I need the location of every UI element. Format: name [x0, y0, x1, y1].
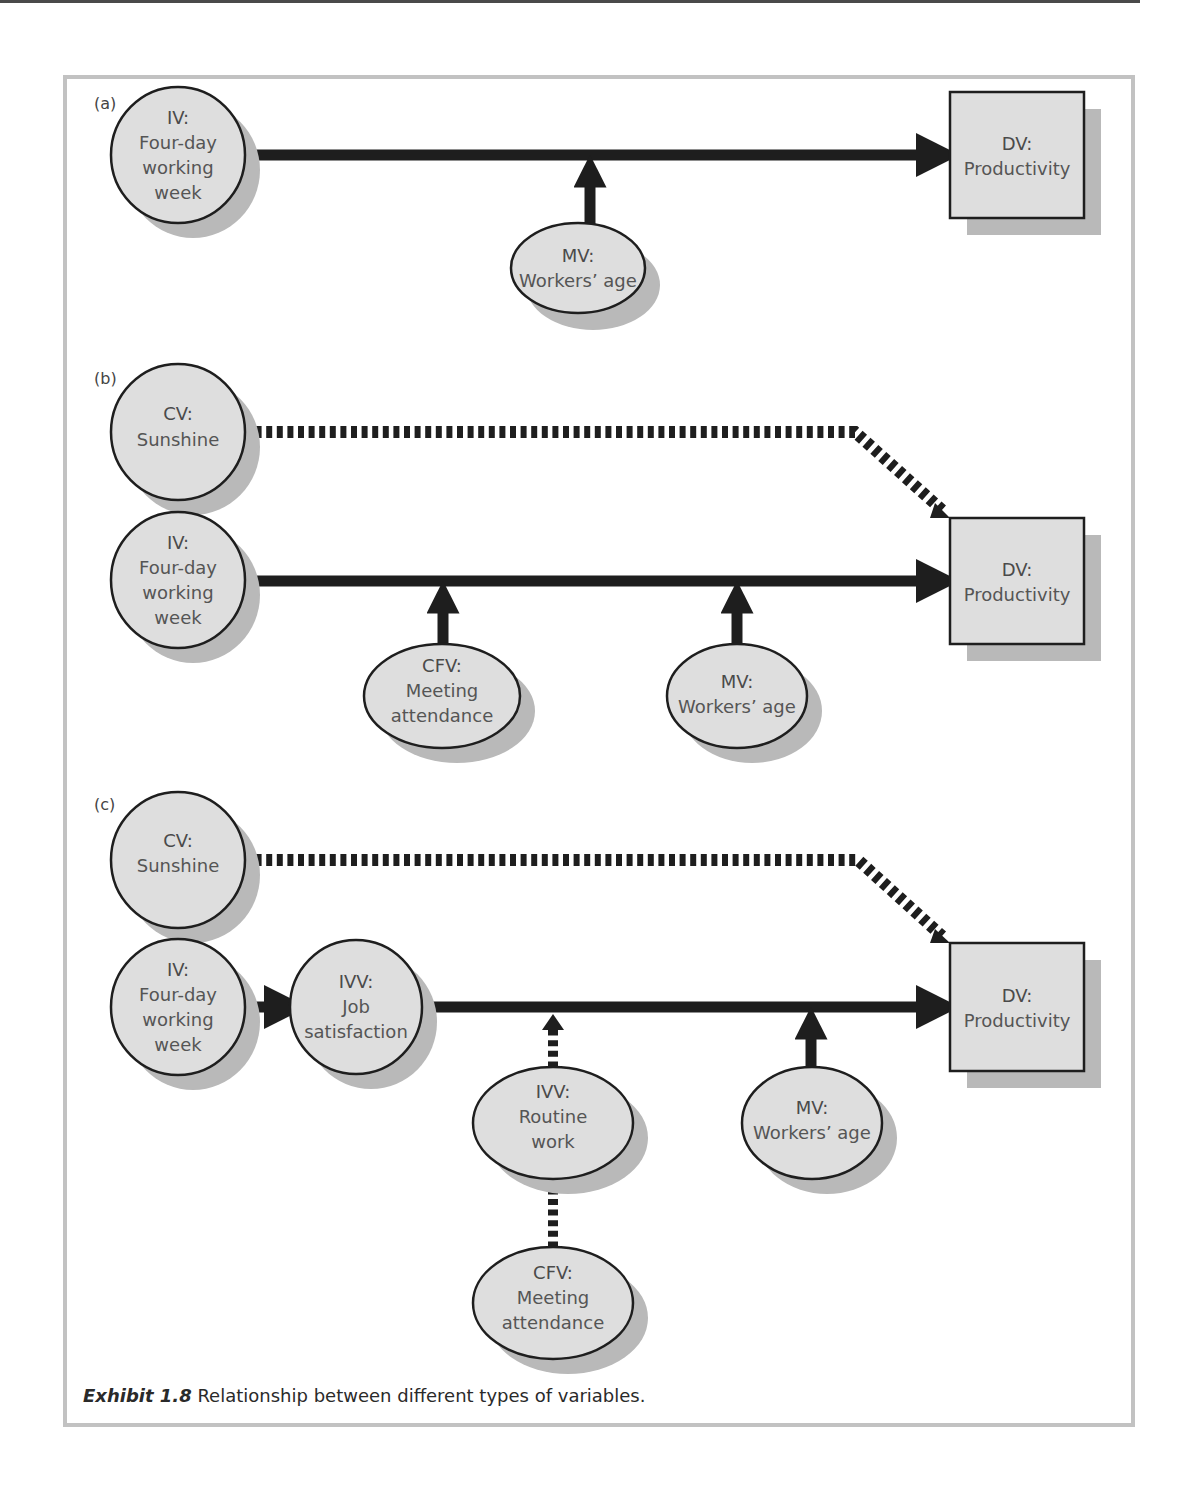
panel-c: (c) CV: Sunshine IV: Four-day worki — [94, 792, 1101, 1374]
svg-text:working: working — [142, 582, 213, 603]
svg-text:Routine: Routine — [519, 1106, 588, 1127]
svg-text:attendance: attendance — [502, 1312, 604, 1333]
node-ivv-routine-work: IVV: Routine work — [473, 1067, 648, 1194]
svg-text:Sunshine: Sunshine — [137, 429, 220, 450]
svg-text:IV:: IV: — [167, 107, 189, 128]
svg-text:Productivity: Productivity — [964, 158, 1071, 179]
svg-text:satisfaction: satisfaction — [304, 1021, 408, 1042]
svg-text:IVV:: IVV: — [339, 971, 374, 992]
svg-text:Four-day: Four-day — [139, 984, 217, 1005]
svg-text:Workers’ age: Workers’ age — [678, 696, 796, 717]
node-mv: MV: Workers’ age — [742, 1067, 897, 1194]
svg-text:Productivity: Productivity — [964, 1010, 1071, 1031]
variables-diagram: (a) IV: Four-day working week DV: Produc… — [0, 0, 1186, 1506]
svg-text:MV:: MV: — [721, 671, 753, 692]
svg-text:IVV:: IVV: — [536, 1081, 571, 1102]
svg-text:Sunshine: Sunshine — [137, 855, 220, 876]
svg-text:CFV:: CFV: — [533, 1262, 573, 1283]
node-mv: MV: Workers’ age — [511, 223, 660, 330]
svg-text:working: working — [142, 157, 213, 178]
svg-text:DV:: DV: — [1002, 985, 1032, 1006]
node-cv: CV: Sunshine — [111, 792, 260, 943]
panel-b: (b) CV: Sunshine IV: Four-day working we… — [94, 364, 1101, 763]
node-mv: MV: Workers’ age — [667, 644, 822, 763]
svg-text:DV:: DV: — [1002, 559, 1032, 580]
node-cfv: CFV: Meeting attendance — [364, 644, 535, 763]
svg-text:CV:: CV: — [163, 403, 192, 424]
svg-text:week: week — [154, 607, 202, 628]
svg-text:IV:: IV: — [167, 532, 189, 553]
svg-text:MV:: MV: — [796, 1097, 828, 1118]
node-iv: IV: Four-day working week — [111, 512, 260, 663]
panel-label-b: (b) — [94, 369, 117, 388]
svg-text:working: working — [142, 1009, 213, 1030]
svg-text:Four-day: Four-day — [139, 557, 217, 578]
svg-text:week: week — [154, 182, 202, 203]
node-iv: IV: Four-day working week — [111, 939, 260, 1090]
svg-text:work: work — [531, 1131, 575, 1152]
svg-text:Job: Job — [341, 996, 370, 1017]
svg-text:Meeting: Meeting — [517, 1287, 590, 1308]
svg-text:CFV:: CFV: — [422, 655, 462, 676]
svg-text:DV:: DV: — [1002, 133, 1032, 154]
svg-text:IV:: IV: — [167, 959, 189, 980]
svg-text:week: week — [154, 1034, 202, 1055]
panel-a: (a) IV: Four-day working week DV: Produc… — [94, 87, 1101, 330]
cv-control-dashed-path — [245, 432, 942, 510]
cv-control-dashed-path — [245, 860, 942, 936]
svg-text:CV:: CV: — [163, 830, 192, 851]
exhibit-caption: Exhibit 1.8 Relationship between differe… — [83, 1385, 645, 1406]
node-iv: IV: Four-day working week — [111, 87, 260, 238]
node-dv: DV: Productivity — [950, 943, 1101, 1088]
svg-text:Four-day: Four-day — [139, 132, 217, 153]
caption-text: Relationship between different types of … — [192, 1385, 646, 1406]
svg-text:Workers’ age: Workers’ age — [753, 1122, 871, 1143]
routine-ivv-arrowhead-icon — [542, 1014, 564, 1030]
node-dv: DV: Productivity — [950, 92, 1101, 235]
node-dv: DV: Productivity — [950, 518, 1101, 661]
svg-text:Productivity: Productivity — [964, 584, 1071, 605]
svg-text:MV:: MV: — [562, 245, 594, 266]
svg-text:Workers’ age: Workers’ age — [519, 270, 637, 291]
panel-label-c: (c) — [94, 795, 115, 814]
svg-text:Meeting: Meeting — [406, 680, 479, 701]
node-cfv: CFV: Meeting attendance — [473, 1247, 648, 1374]
panel-label-a: (a) — [94, 94, 116, 113]
node-ivv-job-satisfaction: IVV: Job satisfaction — [290, 940, 437, 1089]
node-cv: CV: Sunshine — [111, 364, 260, 515]
svg-text:attendance: attendance — [391, 705, 493, 726]
caption-label: Exhibit 1.8 — [83, 1385, 192, 1406]
